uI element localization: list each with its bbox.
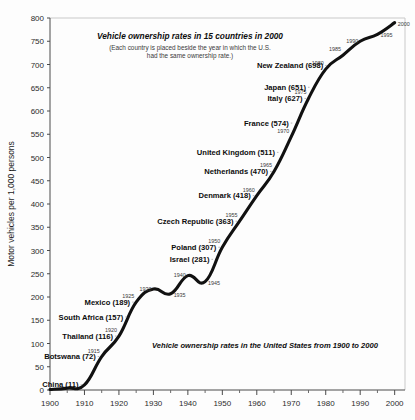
- chart-subtitle-line1: (Each country is placed beside the year …: [109, 44, 271, 52]
- country-annotation-label: Botswana (72): [44, 352, 96, 361]
- y-tick-label: 700: [31, 61, 45, 70]
- x-tick-label: 1930: [144, 399, 162, 408]
- country-annotation-label: Mexico (189): [85, 298, 131, 307]
- curve-year-marker: 1985: [329, 46, 341, 52]
- y-tick-label: 500: [31, 154, 45, 163]
- vehicle-ownership-chart: 0501001502002503003504004505005506006507…: [0, 0, 415, 420]
- y-tick-label: 150: [31, 316, 45, 325]
- country-annotation-label: New Zealand (698): [257, 61, 324, 70]
- x-tick-label: 1960: [248, 399, 266, 408]
- curve-year-marker: 1935: [174, 292, 186, 298]
- x-tick-label: 1950: [213, 399, 231, 408]
- country-annotation-label: Czech Republic (363): [157, 217, 234, 226]
- x-tick-label: 1900: [41, 399, 59, 408]
- y-tick-label: 300: [31, 247, 45, 256]
- x-tick-label: 1990: [351, 399, 369, 408]
- y-tick-label: 550: [31, 130, 45, 139]
- x-tick-label: 1970: [282, 399, 300, 408]
- country-annotation-label: Japan (651): [264, 83, 306, 92]
- country-annotation-label: Poland (307): [171, 243, 217, 252]
- curve-year-marker: 1940: [174, 272, 186, 278]
- y-tick-label: 350: [31, 223, 45, 232]
- country-annotation-label: Thailand (116): [62, 332, 113, 341]
- country-annotation-label: France (574): [244, 119, 289, 128]
- y-tick-label: 100: [31, 340, 45, 349]
- country-annotation-label: Netherlands (470): [204, 167, 268, 176]
- y-tick-label: 450: [31, 177, 45, 186]
- y-tick-label: 600: [31, 107, 45, 116]
- country-annotation-label: Denmark (418): [198, 191, 251, 200]
- country-annotation-label: China (11): [42, 380, 79, 389]
- country-annotation-label: Italy (627): [267, 94, 303, 103]
- y-tick-label: 50: [35, 363, 44, 372]
- y-tick-label: 650: [31, 84, 45, 93]
- curve-year-marker: 1930: [139, 286, 151, 292]
- y-tick-label: 400: [31, 200, 45, 209]
- x-tick-label: 2000: [386, 399, 404, 408]
- chart-title: Vehicle ownership rates in 15 countries …: [97, 31, 283, 41]
- y-tick-label: 800: [31, 14, 45, 23]
- curve-year-marker: 2000: [398, 21, 410, 27]
- curve-year-marker: 1970: [277, 128, 289, 134]
- country-annotation-label: South Africa (157): [59, 313, 124, 322]
- y-tick-label: 750: [31, 37, 45, 46]
- x-tick-label: 1940: [179, 399, 197, 408]
- country-annotation-label: United Kingdom (511): [197, 148, 276, 157]
- y-tick-label: 250: [31, 270, 45, 279]
- y-tick-label: 200: [31, 293, 45, 302]
- x-tick-label: 1910: [76, 399, 94, 408]
- x-tick-label: 1920: [110, 399, 128, 408]
- curve-year-marker: 1990: [346, 38, 358, 44]
- chart-subtitle-line2: had the same ownership rate.): [147, 52, 233, 60]
- x-tick-label: 1980: [317, 399, 335, 408]
- country-annotation-label: Israel (281): [170, 255, 210, 264]
- curve-year-marker: 1995: [380, 32, 392, 38]
- chart-caption: Vehicle ownership rates in the United St…: [152, 341, 379, 350]
- curve-year-marker: 1945: [208, 280, 220, 286]
- y-axis-title: Motor vehicles per 1,000 persons: [6, 141, 16, 267]
- chart-canvas: 0501001502002503003504004505005506006507…: [0, 0, 415, 420]
